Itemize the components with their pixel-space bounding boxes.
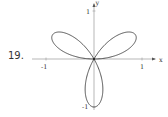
y-axis-label: y <box>95 0 100 7</box>
polar-plot: x y -1 1 1 -1 <box>0 0 168 117</box>
y-tick-label-pos: 1 <box>86 8 90 16</box>
y-tick-label-neg: -1 <box>82 103 88 111</box>
origin-point <box>93 58 95 60</box>
x-tick-label-neg: -1 <box>41 63 47 71</box>
x-axis-label: x <box>159 56 163 64</box>
x-tick-label-pos: 1 <box>140 63 144 71</box>
